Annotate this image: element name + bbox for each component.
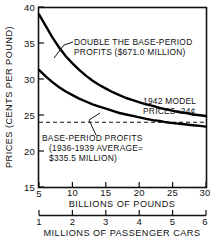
annotation-upper-curve-line2: PROFITS ($671.0 MILLION) xyxy=(74,47,186,57)
y-tick-label-30: 30 xyxy=(24,74,35,85)
secondary-x-tick-label-3: 3 xyxy=(103,216,108,227)
secondary-x-axis-tick-labels: 1 2 3 4 5 6 xyxy=(36,216,207,227)
leader-line-lower-curve xyxy=(89,113,100,135)
x-axis-title: BILLIONS OF POUNDS xyxy=(69,199,176,209)
annotation-lower-curve-line2: (1936-1939 AVERAGE= xyxy=(49,143,143,153)
x-axis-tick-labels: 5 10 15 20 25 30 xyxy=(36,187,210,199)
secondary-x-tick-label-4: 4 xyxy=(136,216,141,227)
y-tick-label-20: 20 xyxy=(24,146,35,157)
x-tick-label-25: 25 xyxy=(167,187,178,198)
y-tick-label-25: 25 xyxy=(24,110,35,121)
annotation-lower-curve: BASE-PERIOD PROFITS (1936-1939 AVERAGE= … xyxy=(42,133,143,163)
y-axis-title: PRICES (CENTS PER POUND) xyxy=(4,26,14,168)
secondary-x-tick-label-1: 1 xyxy=(36,216,41,227)
chart-svg: 40 35 30 25 20 15 PRICES (CENTS PER POUN… xyxy=(0,0,220,238)
secondary-x-tick-label-2: 2 xyxy=(70,216,75,227)
annotation-upper-curve-line1: DOUBLE THE BASE-PERIOD xyxy=(74,37,192,47)
x-tick-label-10: 10 xyxy=(67,187,78,198)
x-tick-label-30: 30 xyxy=(200,187,211,198)
secondary-x-tick-label-6: 6 xyxy=(202,216,207,227)
x-tick-label-20: 20 xyxy=(134,187,145,198)
secondary-x-axis-ticks xyxy=(39,210,206,216)
chart-figure: 40 35 30 25 20 15 PRICES (CENTS PER POUN… xyxy=(0,0,220,238)
annotation-upper-curve: DOUBLE THE BASE-PERIOD PROFITS ($671.0 M… xyxy=(74,37,192,57)
annotation-reference-line1: 1942 MODEL xyxy=(143,96,196,106)
y-axis-tick-labels: 40 35 30 25 20 15 xyxy=(24,2,35,193)
secondary-x-tick-label-5: 5 xyxy=(170,216,175,227)
x-axis-ticks xyxy=(39,182,206,188)
annotation-lower-curve-line1: BASE-PERIOD PROFITS xyxy=(42,133,143,143)
y-axis-ticks xyxy=(39,7,45,187)
annotation-reference-line2: PRICES=24¢ xyxy=(143,106,196,116)
y-tick-label-15: 15 xyxy=(24,182,35,193)
annotation-reference-line: 1942 MODEL PRICES=24¢ xyxy=(143,96,196,116)
x-tick-label-5: 5 xyxy=(36,188,41,199)
secondary-x-axis-title: MILLIONS OF PASSENGER CARS xyxy=(43,228,200,238)
x-tick-label-15: 15 xyxy=(100,187,111,198)
annotation-lower-curve-line3: $335.5 MILLION) xyxy=(49,153,117,163)
y-tick-label-35: 35 xyxy=(24,38,35,49)
y-tick-label-40: 40 xyxy=(24,2,35,13)
